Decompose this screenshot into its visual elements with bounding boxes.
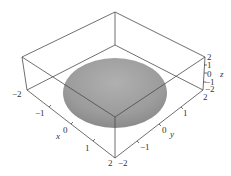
y-axis-label: y xyxy=(169,129,174,139)
z-tick-label: −2 xyxy=(205,84,215,94)
x-tick-label: 2 xyxy=(108,158,113,168)
y-tick-label: 1 xyxy=(183,108,188,118)
x-tick-label: 0 xyxy=(63,125,68,135)
y-tick-label: −1 xyxy=(140,142,150,152)
x-axis-label: x xyxy=(55,131,60,141)
hemisphere-3d-plot: −2 −1 0 1 2 x −2 −1 0 1 2 y 2 1 0 −1 −2 … xyxy=(0,0,231,176)
x-tick-label: 1 xyxy=(85,143,90,153)
y-tick-label: 0 xyxy=(162,125,167,135)
y-tick-label: −2 xyxy=(118,158,128,168)
z-axis-tick-labels: 2 1 0 −1 −2 xyxy=(205,52,215,94)
z-axis-label: z xyxy=(219,69,224,79)
x-tick-label: −1 xyxy=(35,108,45,118)
x-tick-label: −2 xyxy=(12,89,22,99)
